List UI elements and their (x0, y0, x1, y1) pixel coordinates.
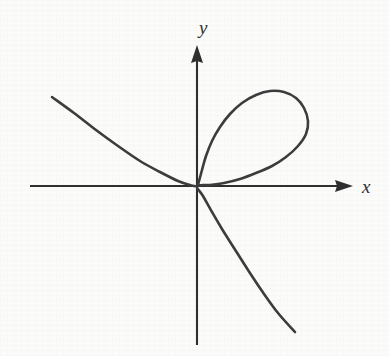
curve-plot-svg (0, 0, 389, 356)
x-axis-label: x (362, 177, 370, 196)
y-axis-label: y (199, 18, 207, 37)
figure-container: y x (0, 0, 389, 356)
